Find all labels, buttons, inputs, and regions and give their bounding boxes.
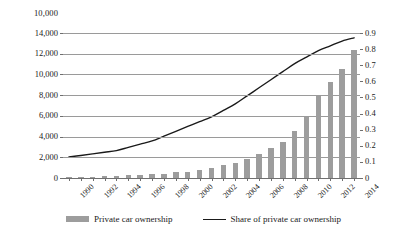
- y-axis-right-label: 0.8: [365, 45, 376, 54]
- y-axis-right-tick: [360, 49, 363, 50]
- x-axis-label-2010: 2010: [316, 183, 333, 200]
- line-path-share-of-private-car-ownership: [69, 38, 354, 157]
- bar-2011: [316, 96, 321, 178]
- bar-2003: [221, 165, 226, 178]
- y-axis-right-tick: [360, 97, 363, 98]
- x-axis-tick: [259, 178, 260, 181]
- x-axis-tick: [342, 178, 343, 181]
- x-axis-tick: [283, 178, 284, 181]
- legend-bar-swatch-icon: [66, 216, 89, 222]
- x-axis-tick: [295, 178, 296, 181]
- y-axis-right-tick: [360, 130, 363, 131]
- y-axis-left-label: 14,000: [35, 29, 58, 38]
- x-axis-tick: [105, 178, 106, 181]
- y-axis-left-label: 8,000: [39, 91, 58, 100]
- x-axis-label-1990: 1990: [79, 183, 96, 200]
- x-axis-label-2002: 2002: [221, 183, 238, 200]
- x-axis-tick: [176, 178, 177, 181]
- x-axis-tick: [116, 178, 117, 181]
- legend-line-swatch-icon: [203, 219, 226, 220]
- y-axis-right-tick: [360, 114, 363, 115]
- x-axis-tick: [69, 178, 70, 181]
- bar-2004: [233, 163, 238, 178]
- chart-container: 10,000 14,00012,00010,0008,0006,0004,000…: [0, 0, 407, 239]
- gridline-14000: [63, 33, 360, 34]
- y-axis-right-tick: [360, 146, 363, 147]
- bar-2009: [292, 131, 297, 178]
- y-axis-right-label: 0: [365, 174, 369, 183]
- y-axis-right-label: 0.7: [365, 61, 376, 70]
- x-axis-tick: [93, 178, 94, 181]
- y-axis-right-tick: [360, 33, 363, 34]
- y-axis-right-tick: [360, 81, 363, 82]
- x-axis-tick: [318, 178, 319, 181]
- x-axis-tick: [307, 178, 308, 181]
- y-axis-right-tick: [360, 65, 363, 66]
- x-axis-tick: [81, 178, 82, 181]
- y-axis-left-tick: [60, 33, 63, 34]
- y-axis-right-label: 0.1: [365, 157, 376, 166]
- y-axis-right-label: 0.5: [365, 93, 376, 102]
- x-axis-tick: [188, 178, 189, 181]
- stray-axis-label: 10,000: [0, 8, 58, 18]
- bar-2012: [328, 82, 333, 178]
- bar-2010: [304, 117, 309, 179]
- gridline-10000: [63, 74, 360, 75]
- x-axis-tick: [223, 178, 224, 181]
- y-axis-left-label: 4,000: [39, 132, 58, 141]
- bar-2013: [339, 69, 344, 178]
- legend-item-share-of-private-car-ownership: Share of private car ownership: [203, 214, 341, 224]
- y-axis-left-label: 0: [54, 174, 58, 183]
- y-axis-left-label: 10,000: [35, 70, 58, 79]
- y-axis-right-label: 0.6: [365, 77, 376, 86]
- plot-area: 14,00012,00010,0008,0006,0004,0002,00000…: [63, 33, 360, 178]
- y-axis-left-tick: [60, 157, 63, 158]
- y-axis-left-tick: [60, 178, 63, 179]
- y-axis-right-label: 0.2: [365, 141, 376, 150]
- x-axis-label-1996: 1996: [150, 183, 167, 200]
- y-axis-right-label: 0.3: [365, 125, 376, 134]
- y-axis-left-tick: [60, 74, 63, 75]
- x-axis-label-1994: 1994: [126, 183, 143, 200]
- y-axis-left-label: 2,000: [39, 153, 58, 162]
- x-axis-tick: [200, 178, 201, 181]
- x-axis-tick: [235, 178, 236, 181]
- y-axis-left-tick: [60, 95, 63, 96]
- x-axis-label-2000: 2000: [197, 183, 214, 200]
- x-axis-label-2014: 2014: [364, 183, 381, 200]
- x-axis-label-1992: 1992: [102, 183, 119, 200]
- x-axis-label-1998: 1998: [174, 183, 191, 200]
- x-axis-tick: [271, 178, 272, 181]
- y-axis-left-tick: [60, 54, 63, 55]
- chart-legend: Private car ownership Share of private c…: [0, 214, 407, 224]
- bar-2006: [256, 154, 261, 178]
- y-axis-left-tick: [60, 137, 63, 138]
- x-axis-tick: [330, 178, 331, 181]
- x-axis-tick: [212, 178, 213, 181]
- bar-2001: [197, 170, 202, 178]
- y-axis-left-tick: [60, 116, 63, 117]
- y-axis-right-label: 0.4: [365, 109, 376, 118]
- legend-label-share-of-private-car-ownership: Share of private car ownership: [231, 214, 341, 224]
- gridline-12000: [63, 54, 360, 55]
- legend-item-private-car-ownership: Private car ownership: [66, 214, 172, 224]
- x-axis-tick: [140, 178, 141, 181]
- x-axis-label-2008: 2008: [292, 183, 309, 200]
- y-axis-right-label: 0.9: [365, 29, 376, 38]
- x-axis-label-2006: 2006: [269, 183, 286, 200]
- x-axis-tick: [152, 178, 153, 181]
- x-axis-label-2004: 2004: [245, 183, 262, 200]
- y-axis-left-label: 12,000: [35, 49, 58, 58]
- x-axis-tick: [247, 178, 248, 181]
- bar-2014: [351, 50, 356, 178]
- bar-2008: [280, 142, 285, 178]
- bar-2005: [244, 159, 249, 178]
- x-axis-label-2012: 2012: [340, 183, 357, 200]
- x-axis-tick: [128, 178, 129, 181]
- bar-2002: [209, 168, 214, 178]
- bar-2007: [268, 148, 273, 178]
- y-axis-left-label: 6,000: [39, 111, 58, 120]
- y-axis-right-tick: [360, 162, 363, 163]
- legend-label-private-car-ownership: Private car ownership: [94, 214, 172, 224]
- x-axis-tick: [354, 178, 355, 181]
